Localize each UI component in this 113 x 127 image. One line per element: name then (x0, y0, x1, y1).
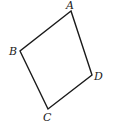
vertex-label-c: C (43, 111, 52, 124)
vertex-label-a: A (65, 0, 74, 12)
quadrilateral-diagram: A B C D (0, 0, 113, 127)
vertex-label-d: D (93, 70, 103, 83)
vertex-label-b: B (8, 45, 17, 58)
quadrilateral-ABCD (20, 11, 92, 109)
